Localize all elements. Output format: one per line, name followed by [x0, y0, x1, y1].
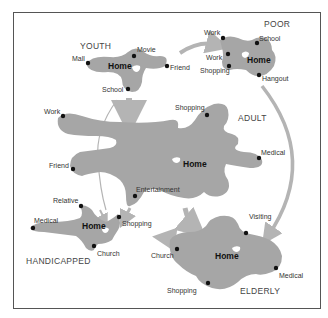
- dest-poor-shopping: Shopping: [200, 67, 230, 74]
- home-label-youth: Home: [108, 62, 132, 71]
- group-label-handicapped: HANDICAPPED: [26, 257, 91, 266]
- group-label-youth: YOUTH: [80, 42, 111, 51]
- dest-youth-movie: Movie: [137, 46, 156, 53]
- dest-adult-friend: Friend: [49, 162, 69, 169]
- dest-elderly-shopping: Shopping: [167, 287, 197, 294]
- dest-youth-mall: Mall: [72, 55, 85, 62]
- dest-handicapped-relative: Relative: [53, 197, 78, 204]
- home-label-adult: Home: [183, 160, 207, 169]
- diagram-graphics: [0, 0, 328, 318]
- group-label-poor: POOR: [264, 20, 290, 29]
- dest-youth-school: School: [102, 86, 123, 93]
- dest-handicapped-shopping: Shopping: [122, 220, 152, 227]
- dest-poor-school: School: [259, 35, 280, 42]
- dest-adult-shopping: Shopping: [175, 104, 205, 111]
- home-label-poor: Home: [247, 56, 271, 65]
- dest-elderly-church: Church: [151, 252, 174, 259]
- dest-poor-hangout: Hangout: [262, 75, 288, 82]
- home-label-elderly: Home: [215, 252, 239, 261]
- home-label-handicapped: Home: [82, 222, 106, 231]
- dest-adult-entertainment: Entertainment: [136, 186, 180, 193]
- dest-handicapped-medical: Medical: [34, 217, 58, 224]
- dest-poor-work-1: Work: [204, 29, 220, 36]
- dest-youth-friend: Friend: [170, 64, 190, 71]
- dest-elderly-medical: Medical: [279, 272, 303, 279]
- dest-adult-medical: Medical: [261, 149, 285, 156]
- group-label-elderly: ELDERLY: [240, 287, 280, 296]
- dest-elderly-visiting: Visiting: [249, 213, 271, 220]
- dest-adult-work: Work: [44, 108, 60, 115]
- dest-handicapped-church: Church: [97, 250, 120, 257]
- group-label-adult: ADULT: [238, 114, 267, 123]
- dest-poor-work-2: Work: [206, 54, 222, 61]
